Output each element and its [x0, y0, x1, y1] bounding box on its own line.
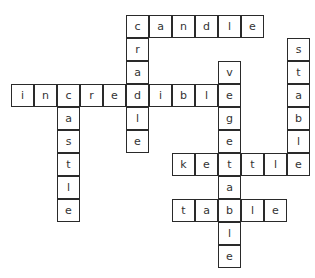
crossword-cell[interactable]: l: [195, 84, 218, 107]
crossword-cell[interactable]: t: [241, 153, 264, 176]
crossword-cell[interactable]: d: [195, 15, 218, 38]
crossword-cell[interactable]: e: [103, 84, 126, 107]
crossword-cell[interactable]: b: [218, 199, 241, 222]
crossword-cell[interactable]: c: [126, 15, 149, 38]
crossword-cell[interactable]: l: [241, 199, 264, 222]
crossword-cell[interactable]: e: [218, 130, 241, 153]
crossword-cell[interactable]: n: [34, 84, 57, 107]
crossword-cell[interactable]: g: [218, 107, 241, 130]
crossword-cell[interactable]: s: [287, 38, 310, 61]
crossword-cell[interactable]: d: [126, 84, 149, 107]
crossword-cell[interactable]: a: [57, 107, 80, 130]
crossword-cell[interactable]: a: [149, 15, 172, 38]
crossword-cell[interactable]: e: [218, 84, 241, 107]
crossword-cell[interactable]: e: [57, 199, 80, 222]
crossword-cell[interactable]: c: [57, 84, 80, 107]
crossword-cell[interactable]: a: [218, 176, 241, 199]
crossword-cell[interactable]: a: [126, 61, 149, 84]
crossword-cell[interactable]: l: [126, 107, 149, 130]
crossword-cell[interactable]: e: [195, 153, 218, 176]
crossword-cell[interactable]: r: [80, 84, 103, 107]
crossword-cell[interactable]: t: [172, 199, 195, 222]
crossword-cell[interactable]: b: [287, 107, 310, 130]
crossword-cell[interactable]: n: [172, 15, 195, 38]
crossword-cell[interactable]: t: [287, 61, 310, 84]
crossword-cell[interactable]: b: [172, 84, 195, 107]
crossword-cell[interactable]: e: [241, 15, 264, 38]
crossword-cell[interactable]: t: [218, 153, 241, 176]
crossword-cell[interactable]: t: [57, 153, 80, 176]
crossword-cell[interactable]: l: [264, 153, 287, 176]
crossword-grid: incrediblecandleraleastlevgetablestablek…: [0, 0, 315, 278]
crossword-cell[interactable]: l: [287, 130, 310, 153]
crossword-cell[interactable]: k: [172, 153, 195, 176]
crossword-cell[interactable]: a: [195, 199, 218, 222]
crossword-cell[interactable]: v: [218, 61, 241, 84]
crossword-cell[interactable]: s: [57, 130, 80, 153]
crossword-cell[interactable]: e: [264, 199, 287, 222]
crossword-cell[interactable]: l: [218, 222, 241, 245]
crossword-cell[interactable]: e: [126, 130, 149, 153]
crossword-cell[interactable]: e: [287, 153, 310, 176]
crossword-cell[interactable]: i: [11, 84, 34, 107]
crossword-cell[interactable]: a: [287, 84, 310, 107]
crossword-cell[interactable]: e: [218, 245, 241, 268]
crossword-cell[interactable]: l: [57, 176, 80, 199]
crossword-cell[interactable]: l: [218, 15, 241, 38]
crossword-cell[interactable]: r: [126, 38, 149, 61]
crossword-cell[interactable]: i: [149, 84, 172, 107]
